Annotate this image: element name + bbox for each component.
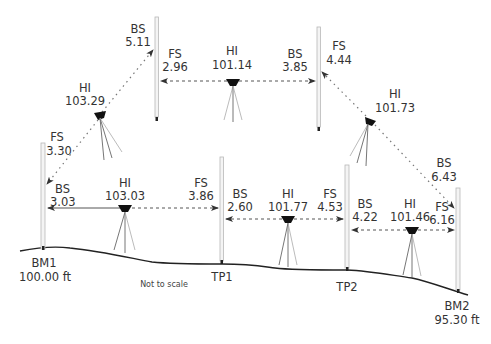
setup-2-bs-label: BS [233, 187, 248, 201]
setup-4-fs-value: 3.30 [46, 144, 72, 158]
setup-6-bs-value: 6.43 [431, 170, 457, 184]
not-to-scale-note: Not to scale [140, 280, 188, 289]
rod-upper-left [155, 17, 159, 121]
setup-3-bs-label: BS [358, 197, 373, 211]
setup-4-fs-label: FS [50, 130, 64, 144]
station-tp2-label: TP2 [335, 280, 357, 294]
setup-6-fs-value: 4.44 [326, 53, 352, 67]
level-instrument-setup-5 [224, 79, 242, 122]
setup-4-hi-value: 103.29 [65, 94, 105, 108]
setup-6-hi-value: 101.73 [375, 101, 415, 115]
level-instrument-setup-3 [403, 227, 421, 277]
setup-3-fs-label: FS [435, 200, 449, 214]
setup-2-hi-value: 101.77 [268, 200, 308, 214]
setup-3-hi-value: 101.46 [390, 210, 430, 224]
rod-upper-right [317, 27, 321, 131]
station-bm2-elevation: 95.30 ft [435, 313, 480, 327]
station-tp1-label: TP1 [210, 270, 232, 284]
setup-5-hi-label: HI [226, 44, 238, 58]
level-instrument-setup-2 [279, 216, 297, 267]
setup-2-bs-value: 2.60 [227, 200, 253, 214]
rod-tp1 [220, 157, 224, 264]
setup-1-hi-value: 103.03 [105, 189, 145, 203]
station-bm2-label: BM2 [444, 299, 469, 313]
setup-1-bs-label: BS [55, 182, 70, 196]
setup-5-fs-label: FS [168, 47, 182, 61]
rod-bm2 [456, 188, 460, 293]
setup-4-hi-label: HI [79, 81, 91, 95]
rod-tp2 [345, 165, 349, 271]
setup-1-fs-label: FS [194, 176, 208, 190]
level-instrument-setup-6 [350, 117, 376, 166]
diag-sight-setup-6-fs [322, 72, 366, 116]
setup-2-fs-label: FS [323, 187, 337, 201]
setup-3-bs-value: 4.22 [352, 210, 378, 224]
setup-1-hi-label: HI [119, 176, 131, 190]
setup-5-bs-label: BS [288, 47, 303, 61]
setup-6-fs-label: FS [332, 39, 346, 53]
level-instrument-setup-1 [114, 205, 135, 253]
diag-sight-setup-4-bs [102, 50, 153, 112]
ground-profile [20, 247, 468, 295]
leveling-diagram: BS 3.03 HI 103.03 FS 3.86 BS 2.60 HI 101… [0, 0, 491, 344]
setup-5-hi-value: 101.14 [212, 58, 252, 72]
setup-5-fs-value: 2.96 [162, 60, 188, 74]
setup-3-hi-label: HI [404, 197, 416, 211]
setup-3-fs-value: 6.16 [429, 213, 455, 227]
rod-bm1 [41, 143, 45, 250]
setup-4-bs-label: BS [131, 22, 146, 36]
setup-6-bs-label: BS [437, 156, 452, 170]
setup-5-bs-value: 3.85 [282, 60, 308, 74]
setup-6-hi-label: HI [389, 87, 401, 101]
level-instrument-setup-4 [94, 111, 122, 160]
setup-1-bs-value: 3.03 [50, 195, 76, 209]
setup-2-hi-label: HI [282, 187, 294, 201]
setup-4-bs-value: 5.11 [125, 35, 151, 49]
station-bm1-elevation: 100.00 ft [19, 270, 72, 284]
setup-1-fs-value: 3.86 [188, 189, 214, 203]
station-bm1-label: BM1 [31, 256, 56, 270]
setup-2-fs-value: 4.53 [317, 200, 343, 214]
